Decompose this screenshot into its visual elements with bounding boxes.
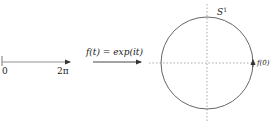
diagram-canvas: 0 2π f(t) = exp(it) S1 f(0): [0, 0, 273, 123]
interval-end-label: 2π: [57, 66, 69, 76]
point-f0-label: f(0): [256, 59, 270, 67]
circle-label: S1: [217, 6, 227, 17]
interval-line: [2, 56, 70, 66]
map-label: f(t) = exp(it): [85, 47, 143, 57]
interval-start-label: 0: [2, 66, 8, 76]
